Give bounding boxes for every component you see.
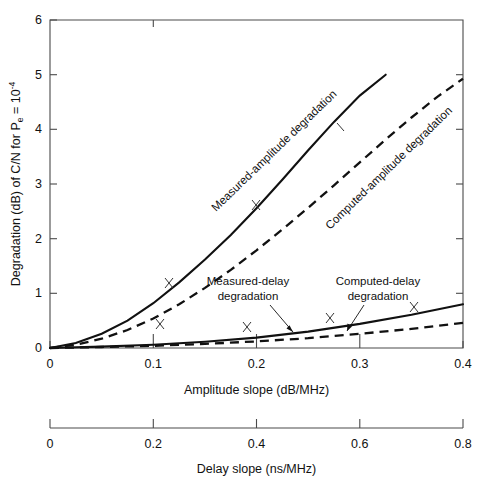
curve-computed-amplitude [50,79,463,348]
y-axis-tick-labels: 0 1 2 3 4 5 6 [35,13,42,355]
callout-computed-delay-line2: degradation [348,290,409,302]
y-axis-title-group: Degradation (dB) of C/N for Pe = 10-4 [7,82,25,287]
degradation-line-chart: 0 1 2 3 4 5 6 Degradation (dB) of C/N fo… [0,0,494,483]
chart-figure: 0 1 2 3 4 5 6 Degradation (dB) of C/N fo… [0,0,494,483]
delay-tick-label-4: 0.8 [454,437,471,451]
y-axis-title: Degradation (dB) of C/N for Pe = 10-4 [7,82,25,287]
y-axis-title-exponent: -4 [7,82,17,90]
x-tick-label-1: 0.1 [145,357,162,371]
x-tick-label-2: 0.2 [248,357,265,371]
y-tick-label-4: 4 [35,122,42,136]
y-tick-label-3: 3 [35,177,42,191]
delay-tick-label-1: 0.2 [145,437,162,451]
curve-label-measured-amplitude: Measured-amplitude degradation [209,88,339,214]
callout-computed-delay-line1: Computed-delay [336,275,421,287]
marker-x [243,322,251,332]
secondary-axis-title: Delay slope (ns/MHz) [197,462,316,476]
arrowhead-measured-delay [287,325,294,332]
delay-tick-label-2: 0.4 [248,437,265,451]
y-tick-label-5: 5 [35,68,42,82]
callout-measured-delay-line2: degradation [218,290,279,302]
callout-computed-delay: Computed-delay degradation [336,275,421,331]
y-tick-label-1: 1 [35,286,42,300]
x-axis-title: Amplitude slope (dB/MHz) [184,383,329,397]
delay-tick-label-3: 0.6 [351,437,368,451]
secondary-delay-axis: 0 0.2 0.4 0.6 0.8 Delay slope (ns/MHz) [47,419,472,476]
x-tick-label-0: 0 [47,357,54,371]
marker-x [410,302,418,312]
y-tick-label-6: 6 [35,13,42,27]
delay-tick-label-0: 0 [47,437,54,451]
marker-x [165,278,173,288]
marker-tick [337,123,344,131]
curve-label-computed-amplitude: Computed-amplitude degradation [323,104,454,231]
y-tick-label-2: 2 [35,232,42,246]
marker-x [156,319,164,329]
x-axis-tick-labels: 0 0.1 0.2 0.3 0.4 [47,357,472,371]
callout-measured-delay-line1: Measured-delay [207,275,290,287]
data-curves [50,75,463,348]
curve-label-computed-amplitude-group: Computed-amplitude degradation [323,104,454,231]
x-tick-label-3: 0.3 [351,357,368,371]
x-tick-label-4: 0.4 [454,357,471,371]
curve-label-measured-amplitude-group: Measured-amplitude degradation [209,88,339,214]
y-axis-title-mid: = 10 [9,89,23,117]
y-tick-label-0: 0 [35,341,42,355]
marker-x [326,313,334,323]
y-axis-title-main: Degradation (dB) of C/N for P [9,122,23,286]
